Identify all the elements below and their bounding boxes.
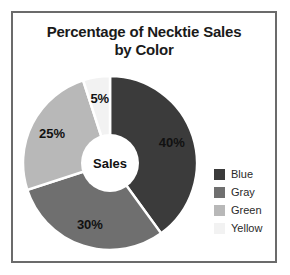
- legend-swatch-green: [214, 205, 225, 216]
- legend-swatch-blue: [214, 169, 225, 180]
- legend-swatch-gray: [214, 187, 225, 198]
- donut-slice-label-yellow: 5%: [90, 91, 109, 106]
- chart-title-line-1: Percentage of Necktie Sales: [47, 23, 242, 40]
- donut-slice-label-gray: 30%: [77, 217, 103, 232]
- legend-label-gray: Gray: [231, 187, 255, 198]
- donut-slice-label-blue: 40%: [159, 135, 185, 150]
- legend-label-yellow: Yellow: [231, 223, 262, 234]
- donut-chart: 40%30%25%5% Sales: [22, 71, 198, 251]
- legend-label-blue: Blue: [231, 169, 253, 180]
- legend-label-green: Green: [231, 205, 262, 216]
- chart-frame: Percentage of Necktie Sales by Color 40%…: [11, 11, 277, 263]
- donut-center-label: Sales: [93, 156, 127, 171]
- legend-swatch-yellow: [214, 223, 225, 234]
- chart-title: Percentage of Necktie Sales by Color: [13, 23, 275, 59]
- chart-title-line-2: by Color: [13, 41, 275, 59]
- legend-item-green[interactable]: Green: [214, 201, 276, 219]
- legend-item-blue[interactable]: Blue: [214, 165, 276, 183]
- donut-chart-svg: 40%30%25%5% Sales: [22, 71, 198, 251]
- chart-legend: BlueGrayGreenYellow: [214, 165, 276, 237]
- legend-item-yellow[interactable]: Yellow: [214, 219, 276, 237]
- donut-slice-label-green: 25%: [39, 126, 65, 141]
- legend-item-gray[interactable]: Gray: [214, 183, 276, 201]
